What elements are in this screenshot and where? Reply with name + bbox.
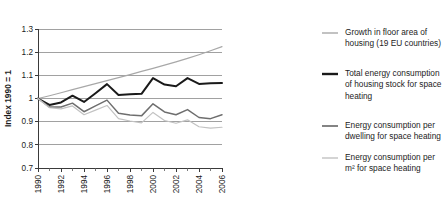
- legend-label-2-line-2: dwelling for space heating: [345, 131, 441, 141]
- legend-item-0[interactable]: Growth in floor area ofhousing (19 EU co…: [322, 27, 441, 48]
- series-line-3: [38, 99, 222, 129]
- y-tick-group: 0.70.80.911.11.21.3: [22, 25, 38, 173]
- y-tick-label-0.9: 0.9: [22, 117, 34, 126]
- x-tick-label-1996: 1996: [103, 175, 112, 194]
- x-tick-label-1992: 1992: [57, 175, 66, 194]
- x-tick-label-1994: 1994: [80, 175, 89, 194]
- chart-figure: 0.70.80.911.11.21.3199019921994199619982…: [0, 0, 442, 223]
- legend-label-0-line-1: Growth in floor area of: [345, 27, 428, 37]
- x-tick-label-1990: 1990: [34, 175, 43, 194]
- series-line-0: [38, 47, 222, 99]
- legend-item-1[interactable]: Total energy consumptionof housing stock…: [322, 68, 442, 100]
- x-tick-group: 199019921994199619982000200220042006: [34, 168, 227, 193]
- series-line-2: [38, 99, 222, 119]
- x-tick-label-2006: 2006: [218, 175, 227, 194]
- x-tick-label-2002: 2002: [172, 175, 181, 194]
- legend-label-3-line-2: m² for space heating: [345, 163, 421, 173]
- y-tick-label-0.7: 0.7: [22, 164, 34, 173]
- y-tick-label-1: 1: [28, 94, 33, 103]
- x-tick-label-1998: 1998: [126, 175, 135, 194]
- y-tick-label-0.8: 0.8: [22, 141, 34, 150]
- x-tick-label-2000: 2000: [149, 175, 158, 194]
- grid-group: [38, 29, 222, 145]
- legend-label-1-line-1: Total energy consumption: [345, 68, 440, 78]
- y-tick-label-1.3: 1.3: [22, 25, 34, 34]
- legend-label-0-line-2: housing (19 EU countries): [345, 38, 441, 48]
- legend-item-3[interactable]: Energy consumption perm² for space heati…: [322, 152, 435, 173]
- energy-index-line-chart: 0.70.80.911.11.21.3199019921994199619982…: [0, 0, 442, 223]
- x-tick-label-2004: 2004: [195, 175, 204, 194]
- legend-label-3-line-1: Energy consumption per: [345, 152, 435, 162]
- series-group: [38, 47, 222, 129]
- y-axis-title: Index 1990 = 1: [3, 70, 13, 127]
- y-tick-label-1.1: 1.1: [22, 71, 34, 80]
- y-tick-label-1.2: 1.2: [22, 48, 34, 57]
- legend-label-1-line-3: heating: [345, 91, 373, 101]
- legend: Growth in floor area ofhousing (19 EU co…: [322, 27, 442, 173]
- legend-label-2-line-1: Energy consumption per: [345, 120, 435, 130]
- legend-label-1-line-2: of housing stock for space: [345, 79, 442, 89]
- legend-item-2[interactable]: Energy consumption perdwelling for space…: [322, 120, 441, 141]
